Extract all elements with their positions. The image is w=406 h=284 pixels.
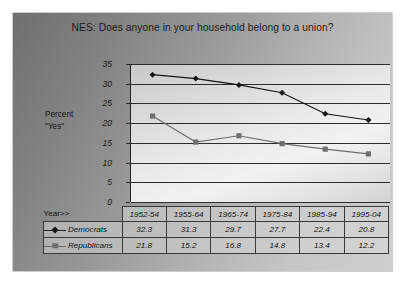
series-line (153, 116, 369, 154)
diamond-marker-icon (51, 226, 58, 233)
legend-democrats-label: Democrats (68, 225, 107, 234)
table-row-democrats: Democrats 32.331.329.727.722.420.8 (44, 222, 389, 238)
table-value-cell: 22.4 (300, 222, 344, 238)
table-value-cell: 31.3 (166, 222, 210, 238)
table-header-cell: 1985-94 (300, 207, 344, 222)
diamond-marker-icon (365, 117, 371, 123)
series-plot (131, 64, 390, 202)
series-republicans (150, 113, 371, 156)
table-value-cell: 12.2 (344, 238, 388, 254)
table-value-cell: 14.8 (255, 238, 299, 254)
table-header-cell: 1955-64 (166, 207, 210, 222)
table-value-cell: 20.8 (344, 222, 388, 238)
y-tick-mark (126, 202, 130, 203)
table-value-cell: 32.3 (122, 222, 166, 238)
plot-wrapper: 05101520253035 (117, 53, 389, 208)
y-tick-label: 30 (102, 79, 112, 89)
diamond-marker-icon (150, 72, 156, 78)
table-value-cell: 29.7 (211, 222, 255, 238)
square-marker-icon (52, 243, 58, 249)
series-democrats (150, 72, 372, 123)
table-value-cell: 16.8 (211, 238, 255, 254)
y-tick-label: 5 (107, 177, 112, 187)
table-header-cell: 1965-74 (211, 207, 255, 222)
table-header-row: Year>> 1952-541955-641965-741975-841985-… (44, 207, 389, 222)
square-marker-icon (366, 151, 371, 156)
table-header-cell: 1995-04 (344, 207, 388, 222)
y-tick-label: 15 (102, 138, 112, 148)
diamond-marker-icon (322, 111, 328, 117)
plot-area (130, 64, 390, 202)
republicans-line-swatch (44, 241, 66, 250)
square-marker-icon (193, 139, 198, 144)
data-table: Year>> 1952-541955-641965-741975-841985-… (43, 206, 389, 254)
table-value-cell: 13.4 (300, 238, 344, 254)
democrats-line-swatch (44, 225, 66, 234)
diamond-marker-icon (279, 90, 285, 96)
table-row-republicans: Republicans 21.815.216.814.813.412.2 (44, 238, 389, 254)
square-marker-icon (236, 133, 241, 138)
series-line (153, 75, 369, 120)
y-tick-label: 20 (102, 118, 112, 128)
legend-democrats: Democrats (44, 222, 123, 238)
square-marker-icon (150, 113, 155, 118)
table-value-cell: 21.8 (122, 238, 166, 254)
table-value-cell: 27.7 (255, 222, 299, 238)
y-tick-label: 25 (102, 98, 112, 108)
y-tick-label: 35 (102, 59, 112, 69)
legend-republicans: Republicans (44, 238, 123, 254)
square-marker-icon (279, 141, 284, 146)
screenshot-root: NES: Does anyone in your household belon… (0, 0, 406, 284)
diamond-marker-icon (236, 82, 242, 88)
gridline (131, 202, 390, 203)
chart-panel: NES: Does anyone in your household belon… (13, 13, 392, 271)
table-value-cell: 15.2 (166, 238, 210, 254)
legend-republicans-label: Republicans (68, 241, 113, 250)
square-marker-icon (323, 147, 328, 152)
year-corner-label: Year>> (44, 207, 123, 222)
diamond-marker-icon (193, 76, 199, 82)
table-header-cell: 1952-54 (122, 207, 166, 222)
table-header-cell: 1975-84 (255, 207, 299, 222)
y-tick-label: 10 (102, 158, 112, 168)
chart-title: NES: Does anyone in your household belon… (13, 22, 392, 33)
